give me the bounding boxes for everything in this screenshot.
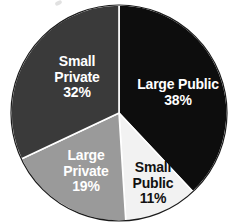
pie-chart-figure: Large Public 38% Small Public 11% Large … xyxy=(0,0,239,224)
pie-chart-graphic xyxy=(0,0,239,224)
pie-slices-group xyxy=(11,5,227,221)
